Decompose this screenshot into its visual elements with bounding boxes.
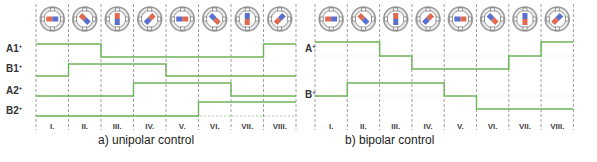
unipolar-panel: A1+ B1+ A2+ B2+ I.II.III.IV.V.VI.VII.VII…: [0, 0, 300, 162]
step-label: IV.: [140, 122, 160, 131]
step-label: I.: [42, 122, 62, 131]
step-label: VII.: [237, 122, 257, 131]
bipolar-timing-diagram: [300, 0, 597, 130]
stepper-motor-icon: [105, 7, 129, 31]
step-label: VIII.: [547, 122, 567, 131]
stepper-motor-icon: [545, 7, 569, 31]
stepper-motor-icon: [73, 7, 97, 31]
signal-label-a2: A2+: [6, 85, 22, 96]
stepper-motor-icon: [513, 7, 537, 31]
unipolar-timing-diagram: [0, 0, 300, 130]
step-label: V.: [450, 122, 470, 131]
stepper-motor-icon: [203, 7, 227, 31]
stepper-motor-icon: [138, 7, 162, 31]
step-label: VII.: [515, 122, 535, 131]
bipolar-caption: b) bipolar control: [345, 133, 434, 147]
stepper-motor-icon: [351, 7, 375, 31]
stepper-motor-icon: [384, 7, 408, 31]
stepper-motor-icon: [170, 7, 194, 31]
bipolar-panel: A+ B+ I.II.III.IV.V.VI.VII.VIII. b) bipo…: [300, 0, 597, 162]
step-label: VI.: [205, 122, 225, 131]
step-label: I.: [321, 122, 341, 131]
signal-trace: [36, 64, 296, 76]
signal-label-a: A+: [305, 43, 316, 54]
stepper-motor-icon: [235, 7, 259, 31]
step-label: II.: [353, 122, 373, 131]
step-label: V.: [172, 122, 192, 131]
step-label: III.: [107, 122, 127, 131]
stepper-motor-icon: [448, 7, 472, 31]
step-label: VIII.: [270, 122, 290, 131]
stepper-motor-icon: [268, 7, 292, 31]
signal-label-a1: A1+: [6, 43, 22, 54]
step-label: III.: [386, 122, 406, 131]
unipolar-caption: a) unipolar control: [98, 133, 194, 147]
signal-label-b: B+: [305, 89, 316, 100]
stepper-motor-icon: [481, 7, 505, 31]
stepper-motor-icon: [319, 7, 343, 31]
step-label: VI.: [483, 122, 503, 131]
step-label: IV.: [418, 122, 438, 131]
stepper-motor-icon: [40, 7, 64, 31]
stepper-motor-icon: [416, 7, 440, 31]
signal-label-b1: B1+: [6, 63, 22, 74]
signal-label-b2: B2+: [6, 105, 22, 116]
step-label: II.: [75, 122, 95, 131]
